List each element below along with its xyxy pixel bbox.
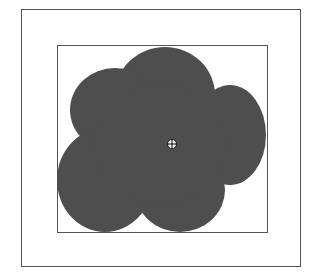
crosshair-target-icon [168,140,177,149]
blob-lobe [95,85,225,205]
blob-shape [0,0,322,278]
